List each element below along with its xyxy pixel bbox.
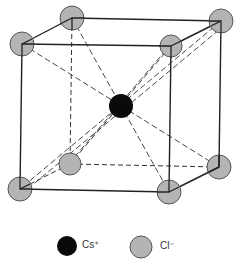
front-left-vertical-edge: [20, 44, 22, 189]
front-top-edge: [22, 44, 171, 46]
front-right-vertical-edge: [169, 46, 171, 192]
legend-cl-label: Cl⁻: [160, 240, 174, 251]
legend-cl-swatch: [130, 236, 152, 258]
unit-cell-diagram: [0, 0, 244, 260]
legend-cs-swatch: [57, 236, 77, 256]
back-right-vertical-edge: [219, 21, 221, 167]
legend: [57, 236, 152, 258]
back-bottom-edge: [70, 164, 219, 167]
cs-atom-body-center: [109, 94, 133, 118]
legend-cs-label: Cs⁺: [82, 239, 99, 250]
cl-atom-back-bottom-left: [59, 153, 81, 175]
front-bottom-edge: [20, 189, 169, 192]
back-top-edge: [72, 18, 221, 21]
back-left-vertical-edge: [70, 18, 72, 164]
